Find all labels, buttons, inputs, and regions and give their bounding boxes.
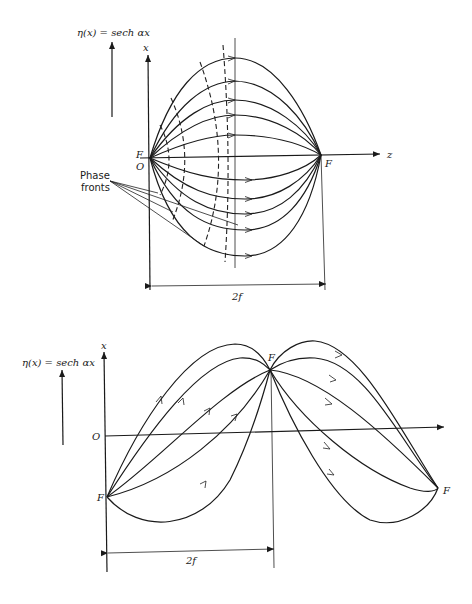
arrowhead xyxy=(327,469,334,475)
bottom-origin-label: O xyxy=(92,431,100,442)
arrowhead xyxy=(200,481,206,488)
arrowhead xyxy=(329,375,336,382)
phase-front-4 xyxy=(223,45,228,262)
phase-front-3 xyxy=(200,62,219,246)
ray-left-1 xyxy=(107,344,270,497)
ray-above-2 xyxy=(150,81,321,158)
bottom-figure: η(x) = sech αx x O F F F xyxy=(22,340,451,572)
top-index-label: η(x) = sech αx xyxy=(77,27,150,38)
arrowhead xyxy=(323,442,330,449)
top-focus-left-label: F xyxy=(135,149,144,160)
ray-right-2 xyxy=(270,358,438,488)
top-figure: η(x) = sech αx x z F O F xyxy=(77,27,393,302)
bottom-x-axis-label: x xyxy=(101,340,107,351)
phase-fronts-label-line2: fronts xyxy=(81,182,110,193)
top-x-axis-label: x xyxy=(143,42,149,53)
bottom-dimension-line xyxy=(108,549,274,553)
bottom-dimension-label: 2f xyxy=(185,555,198,566)
bottom-focus-right-label: F xyxy=(442,485,451,496)
top-dimension-label: 2f xyxy=(231,291,244,302)
top-right-line xyxy=(321,155,325,290)
bottom-z-axis xyxy=(105,427,444,436)
arrowhead xyxy=(325,398,332,405)
ray-below-1 xyxy=(150,155,321,180)
figure-canvas: η(x) = sech αx x z F O F xyxy=(0,0,472,604)
top-origin-label: O xyxy=(136,161,144,172)
top-focus-right-label: F xyxy=(324,158,333,169)
top-z-axis xyxy=(140,154,380,158)
bottom-index-arrow xyxy=(62,370,63,445)
phase-fronts-label-line1: Phase xyxy=(80,170,110,181)
ray-diagram-svg: η(x) = sech αx x z F O F xyxy=(0,0,472,604)
top-z-axis-label: z xyxy=(386,149,393,160)
top-x-axis xyxy=(148,55,150,290)
arrowhead xyxy=(231,414,237,421)
leader-line xyxy=(110,181,158,193)
bottom-index-label: η(x) = sech αx xyxy=(22,357,95,368)
phase-front-2 xyxy=(171,98,185,222)
bottom-x-axis xyxy=(104,352,107,572)
ray-above-4 xyxy=(150,115,321,158)
bottom-center-line xyxy=(271,370,274,568)
bottom-focus-left-label: F xyxy=(96,492,105,503)
ray-above-5 xyxy=(150,135,321,158)
ray-right-1 xyxy=(270,341,438,488)
top-dimension-line xyxy=(152,284,326,286)
